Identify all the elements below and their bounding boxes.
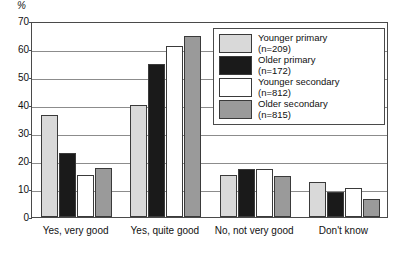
bar (256, 169, 273, 217)
bar (274, 176, 291, 217)
y-axis-tick-label: 10 (3, 185, 29, 195)
legend-series-name: Older secondary (258, 99, 328, 110)
bar (166, 46, 183, 217)
bar (309, 182, 326, 217)
legend-series-count: (n=815) (258, 110, 328, 121)
legend-swatch (219, 34, 252, 53)
x-axis-category-label: Yes, quite good (120, 225, 209, 236)
bar-chart: % 010203040506070 Yes, very goodYes, qui… (0, 0, 395, 255)
y-axis-tick-label: 50 (3, 73, 29, 83)
bar-group (121, 23, 210, 217)
bar (59, 153, 76, 217)
bar (220, 175, 237, 217)
legend-swatch (219, 78, 252, 97)
legend: Younger primary(n=209)Older primary(n=17… (213, 28, 385, 125)
y-axis-tick-label: 40 (3, 101, 29, 111)
legend-series-name: Younger primary (258, 33, 327, 44)
legend-item: Older secondary(n=815) (219, 99, 380, 120)
bar (95, 168, 112, 217)
bar (148, 64, 165, 217)
y-axis-tick-label: 20 (3, 157, 29, 167)
bar (130, 105, 147, 217)
bar (363, 199, 380, 217)
legend-series-count: (n=172) (258, 66, 316, 77)
y-axis-tick-label: 60 (3, 45, 29, 55)
legend-series-count: (n=812) (258, 88, 340, 99)
legend-swatch (219, 100, 252, 119)
y-axis: 010203040506070 (0, 0, 29, 255)
legend-item: Younger secondary(n=812) (219, 77, 380, 98)
bar (77, 175, 94, 217)
bar (184, 36, 201, 217)
bar (238, 169, 255, 217)
y-axis-tick-mark (29, 218, 32, 219)
y-axis-tick-label: 30 (3, 129, 29, 139)
legend-series-count: (n=209) (258, 44, 327, 55)
y-axis-tick-label: 0 (3, 213, 29, 223)
legend-swatch (219, 56, 252, 75)
legend-series-name: Younger secondary (258, 77, 340, 88)
bar (327, 192, 344, 217)
legend-item: Older primary(n=172) (219, 55, 380, 76)
legend-item: Younger primary(n=209) (219, 33, 380, 54)
bar (41, 115, 58, 217)
legend-series-name: Older primary (258, 55, 316, 66)
bar (345, 188, 362, 217)
x-axis-category-label: No, not very good (210, 225, 299, 236)
x-axis-category-label: Yes, very good (31, 225, 120, 236)
bar-group (32, 23, 121, 217)
y-axis-tick-label: 70 (3, 17, 29, 27)
x-axis-category-label: Don't know (299, 225, 388, 236)
